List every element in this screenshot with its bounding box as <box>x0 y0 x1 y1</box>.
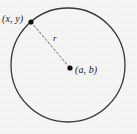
point-on-circle-label: (x, y) <box>2 13 23 24</box>
radius-dashed-line <box>31 22 70 68</box>
radius-label: r <box>53 33 57 44</box>
point-on-circle-marker <box>28 19 33 24</box>
circle-diagram-figure: (x, y) r (a, b) <box>0 0 137 134</box>
circle-outline <box>11 8 125 122</box>
center-point-label: (a, b) <box>75 64 97 75</box>
center-point-marker <box>67 65 72 70</box>
